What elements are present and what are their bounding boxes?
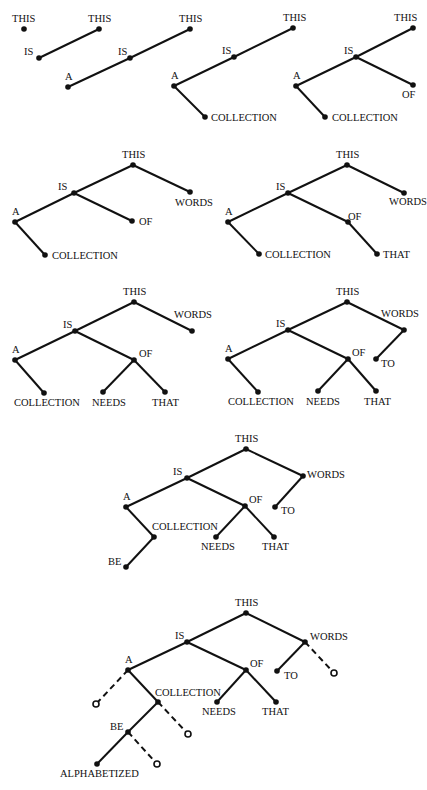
binary-search-tree-diagram: THISTHISISTHISISATHISISACOLLECTIONTHISIS… [0, 0, 427, 790]
node-label-this: THIS [235, 433, 258, 444]
tree-node-dot [256, 251, 262, 257]
node-label-collection: COLLECTION [52, 250, 118, 261]
tree-node-dot [322, 114, 328, 120]
node-label-words: WORDS [389, 196, 427, 207]
tree-edge [15, 331, 75, 360]
tree-node-dot [214, 699, 220, 705]
node-label-this: THIS [122, 149, 145, 160]
tree-stage-10: THISISAOFWORDSTOCOLLECTIONNEEDSTHATBE [108, 433, 345, 570]
tree-edge [128, 702, 158, 732]
tree-node-dot [272, 504, 278, 510]
node-label-is: IS [175, 630, 184, 641]
tree-node-dot [151, 534, 157, 540]
node-label-that: THAT [383, 249, 410, 260]
node-label-this: THIS [283, 12, 306, 23]
tree-node-dot [162, 389, 168, 395]
tree-edge [288, 302, 347, 330]
node-label-collection: COLLECTION [155, 687, 221, 698]
node-label-a: A [123, 491, 131, 502]
node-label-of: OF [139, 216, 153, 227]
tree-node-dot [123, 504, 129, 510]
tree-node-dot [344, 299, 350, 305]
node-label-collection: COLLECTION [14, 397, 80, 408]
node-label-to: TO [381, 358, 395, 369]
tree-node-dot [171, 83, 177, 89]
tree-node-dot [353, 54, 359, 60]
node-label-this: THIS [394, 12, 417, 23]
tree-edge [296, 57, 356, 86]
tree-node-dot [243, 446, 249, 452]
tree-stage-5: THISISAOFCOLLECTION [293, 12, 417, 123]
node-label-collection: COLLECTION [265, 249, 331, 260]
node-label-a: A [125, 654, 133, 665]
node-label-be: BE [108, 556, 121, 567]
tree-stage-2: THISIS [24, 13, 111, 61]
tree-edge [277, 642, 305, 671]
tree-node-dot [344, 162, 350, 168]
node-label-is: IS [63, 319, 72, 330]
tree-edge [234, 28, 293, 57]
tree-edge [97, 732, 128, 764]
empty-branch-edge [305, 642, 334, 673]
tree-edge [318, 359, 348, 391]
tree-stage-11: THISISAOFWORDSTOCOLLECTIONNEEDSTHATBEALP… [60, 597, 348, 779]
tree-node-dot [127, 55, 133, 61]
tree-node-dot [401, 190, 407, 196]
node-label-of: OF [348, 211, 362, 222]
tree-node-dot [130, 162, 136, 168]
tree-edge [74, 165, 133, 193]
node-label-this: THIS [336, 149, 359, 160]
tree-edge [347, 165, 404, 193]
tree-edge [134, 360, 165, 392]
tree-node-dot [189, 328, 195, 334]
node-label-words: WORDS [174, 309, 212, 320]
tree-edge [187, 642, 246, 670]
node-label-is: IS [24, 46, 33, 57]
tree-node-dot [184, 639, 190, 645]
tree-stage-8: THISISAOFWORDSCOLLECTIONNEEDSTHAT [12, 286, 212, 408]
node-label-to: TO [284, 670, 298, 681]
tree-stage-7: THISISAOFWORDSCOLLECTIONTHAT [225, 149, 427, 260]
node-label-alphabetized: ALPHABETIZED [60, 768, 139, 779]
tree-node-dot [202, 114, 208, 120]
tree-edge [348, 359, 376, 391]
tree-node-dot [410, 82, 416, 88]
tree-edge [128, 642, 187, 670]
tree-stage-1: THIS [12, 13, 35, 32]
node-label-needs: NEEDS [92, 397, 126, 408]
node-label-be: BE [110, 721, 123, 732]
node-label-is: IS [276, 318, 285, 329]
tree-edge [296, 86, 325, 117]
tree-node-dot [243, 610, 249, 616]
node-label-is: IS [222, 45, 231, 56]
tree-node-dot [125, 667, 131, 673]
node-label-is: IS [58, 181, 67, 192]
tree-edge [130, 29, 190, 58]
node-label-collection: COLLECTION [152, 521, 218, 532]
node-label-a: A [171, 70, 179, 81]
tree-node-dot [373, 356, 379, 362]
empty-slot-icon [154, 761, 160, 767]
tree-edge [68, 58, 130, 87]
tree-edge [376, 330, 404, 359]
tree-edge [288, 165, 347, 193]
node-label-needs: NEEDS [306, 396, 340, 407]
tree-stage-6: THISISAOFWORDSCOLLECTION [12, 149, 213, 261]
tree-node-dot [187, 189, 193, 195]
tree-node-dot [231, 54, 237, 60]
tree-node-dot [131, 299, 137, 305]
empty-branch-edge [96, 670, 128, 704]
node-label-words: WORDS [307, 469, 345, 480]
tree-node-dot [42, 252, 48, 258]
tree-edge [126, 478, 187, 507]
tree-node-dot [374, 251, 380, 257]
tree-edge [245, 506, 274, 537]
tree-node-dot [285, 327, 291, 333]
node-label-is: IS [173, 466, 182, 477]
node-label-this: THIS [179, 13, 202, 24]
node-label-a: A [65, 71, 73, 82]
node-label-collection: COLLECTION [228, 396, 294, 407]
node-label-of: OF [249, 494, 263, 505]
tree-node-dot [213, 534, 219, 540]
tree-node-dot [225, 356, 231, 362]
